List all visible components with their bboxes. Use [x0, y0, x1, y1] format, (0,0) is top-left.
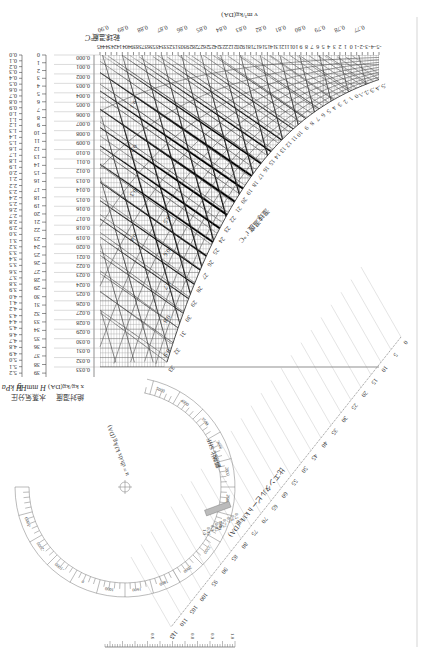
svg-text:17: 17: [256, 172, 265, 181]
svg-text:0.81: 0.81: [274, 24, 287, 34]
svg-text:3: 3: [337, 102, 344, 109]
psychrometric-chart: -5-4-3-2-1012345678910111213141516171819…: [0, 0, 431, 667]
svg-text:25: 25: [350, 402, 359, 411]
svg-text:24: 24: [34, 244, 40, 251]
svg-text:0.90: 0.90: [97, 24, 110, 34]
svg-text:10: 10: [380, 365, 389, 374]
svg-text:10: 10: [34, 130, 40, 137]
svg-text:14: 14: [34, 162, 40, 169]
chart-canvas: -5-4-3-2-1012345678910111213141516171819…: [0, 0, 431, 667]
svg-text:0.023: 0.023: [76, 272, 90, 279]
axis-labels: 0.10.20.30.40.50.60.70.80.9乾球温度t °C0.770…: [2, 11, 410, 641]
svg-text:3.2: 3.2: [9, 244, 17, 251]
svg-text:4.2: 4.2: [9, 306, 17, 313]
svg-text:26: 26: [206, 259, 215, 268]
svg-text:0: 0: [37, 52, 40, 59]
svg-text:4.0: 4.0: [9, 294, 17, 301]
svg-text:0.88: 0.88: [136, 24, 149, 34]
svg-text:19: 19: [34, 203, 40, 210]
svg-text:8: 8: [305, 44, 308, 51]
svg-text:11: 11: [34, 138, 40, 145]
svg-text:26: 26: [34, 260, 40, 267]
svg-text:0.78: 0.78: [333, 24, 346, 34]
svg-text:4: 4: [327, 44, 330, 51]
svg-text:65: 65: [270, 503, 279, 512]
svg-text:3.7: 3.7: [9, 275, 17, 282]
svg-text:0.6: 0.6: [150, 633, 155, 640]
svg-text:2: 2: [37, 68, 40, 75]
svg-text:0.005: 0.005: [76, 102, 90, 109]
svg-text:-4: -4: [371, 44, 376, 51]
svg-text:110: 110: [179, 617, 190, 628]
svg-text:36: 36: [34, 344, 40, 351]
svg-text:5: 5: [322, 44, 325, 51]
svg-text:4000: 4000: [180, 398, 191, 408]
svg-text:2.6: 2.6: [9, 207, 17, 214]
svg-text:0.80: 0.80: [294, 24, 307, 34]
svg-text:0.025: 0.025: [76, 291, 90, 298]
svg-text:30: 30: [184, 314, 193, 323]
svg-text:u = dh/dx kJ/kg (DA): u = dh/dx kJ/kg (DA): [105, 424, 131, 477]
svg-text:0.003: 0.003: [76, 83, 90, 90]
svg-text:1.7: 1.7: [9, 152, 17, 159]
svg-text:3.8: 3.8: [9, 281, 17, 288]
svg-text:4: 4: [37, 83, 40, 90]
svg-text:比エンタルピー h kJ/kg(DA): 比エンタルピー h kJ/kg(DA): [226, 466, 286, 540]
svg-text:12: 12: [34, 146, 40, 153]
svg-text:37: 37: [34, 353, 40, 360]
svg-text:0.84: 0.84: [215, 24, 228, 34]
svg-text:0.029: 0.029: [76, 329, 90, 336]
svg-text:4.7: 4.7: [9, 338, 17, 345]
svg-text:32: 32: [34, 310, 40, 317]
svg-text:0.019: 0.019: [76, 235, 90, 242]
svg-text:1: 1: [37, 60, 40, 67]
svg-text:-2: -2: [360, 44, 365, 51]
svg-text:0.033: 0.033: [76, 367, 90, 374]
svg-text:0.79: 0.79: [314, 24, 327, 34]
svg-text:20: 20: [34, 211, 40, 218]
svg-text:0.9: 0.9: [210, 633, 215, 640]
svg-text:0.011: 0.011: [76, 159, 90, 166]
svg-text:21: 21: [34, 219, 40, 226]
svg-text:0.001: 0.001: [76, 64, 90, 71]
shf-protractor: -5000-2000-10000100016001800200022002400…: [15, 379, 239, 647]
svg-text:0.022: 0.022: [76, 263, 90, 270]
svg-text:2.4: 2.4: [9, 195, 17, 202]
svg-text:0.030: 0.030: [76, 339, 90, 346]
svg-text:16: 16: [262, 165, 271, 174]
svg-text:4.8: 4.8: [9, 344, 17, 351]
svg-text:0.83: 0.83: [235, 24, 248, 34]
svg-text:24: 24: [217, 236, 226, 245]
svg-text:2.9: 2.9: [9, 225, 17, 232]
svg-text:95: 95: [210, 579, 219, 588]
svg-text:0.77: 0.77: [353, 24, 366, 34]
svg-text:0.021: 0.021: [76, 254, 90, 261]
svg-text:9: 9: [37, 122, 40, 129]
svg-text:3.6: 3.6: [9, 269, 17, 276]
svg-text:0.014: 0.014: [76, 187, 90, 194]
svg-text:4.3: 4.3: [9, 313, 17, 320]
svg-text:105: 105: [188, 604, 199, 616]
svg-text:絶対湿度: 絶対湿度: [56, 393, 84, 402]
svg-text:23: 23: [223, 225, 232, 234]
svg-text:45: 45: [97, 44, 103, 51]
svg-text:13: 13: [34, 154, 40, 161]
svg-text:0.027: 0.027: [76, 310, 90, 317]
svg-text:-5: -5: [376, 44, 381, 51]
svg-text:1.4: 1.4: [9, 134, 17, 141]
svg-text:5: 5: [325, 108, 332, 115]
svg-text:1.0: 1.0: [230, 633, 235, 640]
svg-text:0.009: 0.009: [76, 140, 90, 147]
svg-text:水蒸気分圧: 水蒸気分圧: [11, 393, 46, 402]
svg-text:31: 31: [178, 330, 187, 339]
svg-text:18: 18: [251, 180, 260, 189]
svg-text:2.0: 2.0: [9, 170, 17, 177]
svg-text:4: 4: [331, 105, 338, 112]
svg-text:-3: -3: [365, 44, 370, 51]
svg-text:0.006: 0.006: [76, 112, 90, 119]
svg-text:75: 75: [250, 529, 259, 538]
svg-text:6: 6: [320, 112, 327, 119]
svg-text:3.3: 3.3: [9, 250, 17, 257]
svg-text:34: 34: [34, 327, 40, 334]
svg-text:4.4: 4.4: [9, 319, 17, 326]
